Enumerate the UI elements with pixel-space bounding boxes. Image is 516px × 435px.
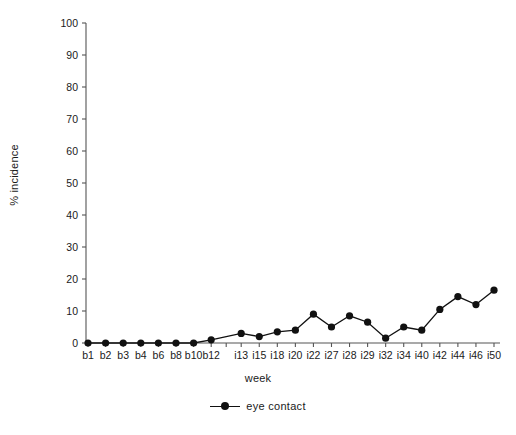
y-tick-label: 20 [66,273,78,285]
y-tick-label: 0 [72,337,78,349]
data-point [256,333,263,340]
y-tick-label: 90 [66,49,78,61]
x-tick-label: i32 [379,349,393,361]
x-tick-label: b6 [153,349,165,361]
y-tick-label: 70 [66,113,78,125]
data-point [472,301,479,308]
x-tick-label: b10 [185,349,203,361]
data-point [102,339,109,346]
data-point [418,327,425,334]
x-tick-label: i27 [324,349,338,361]
data-point [364,319,371,326]
y-tick-label: 10 [66,305,78,317]
x-tick-label: i13 [234,349,248,361]
x-tick-label: b4 [135,349,147,361]
data-point [454,293,461,300]
chart-legend: eye contact [0,400,516,412]
x-tick-label: i46 [469,349,483,361]
data-point [400,323,407,330]
data-point [190,339,197,346]
data-point [436,306,443,313]
legend-label-eye-contact: eye contact [246,400,306,412]
y-axis: 0102030405060708090100 [60,17,86,349]
chart-container: 0102030405060708090100 b1b2b3b4b6b8b10b1… [0,0,516,435]
x-tick-label: i18 [270,349,284,361]
x-tick-label: i50 [487,349,501,361]
y-tick-label: 80 [66,81,78,93]
data-point [120,339,127,346]
x-tick-label: b3 [117,349,129,361]
x-tick-label: b1 [82,349,94,361]
x-tick-label: i20 [288,349,302,361]
x-tick-label: b2 [100,349,112,361]
x-tick-label: i40 [415,349,429,361]
x-tick-label: i42 [433,349,447,361]
data-point [208,336,215,343]
data-point [84,339,91,346]
y-tick-label: 30 [66,241,78,253]
y-tick-label: 100 [60,17,78,29]
data-point [346,312,353,319]
legend-marker-icon [210,401,240,411]
y-tick-label: 60 [66,145,78,157]
data-point [274,328,281,335]
data-point [238,330,245,337]
y-tick-label: 50 [66,177,78,189]
x-tick-label: i29 [361,349,375,361]
x-tick-label: i44 [451,349,465,361]
x-axis-title: week [0,372,516,384]
x-axis: b1b2b3b4b6b8b10b12i13i15i18i20i22i27i28i… [82,343,501,361]
x-tick-label: b12 [202,349,220,361]
x-tick-label: i28 [343,349,357,361]
data-point [310,311,317,318]
data-point [172,339,179,346]
data-point [155,339,162,346]
x-tick-label: b8 [170,349,182,361]
series-eye-contact [84,287,497,347]
data-point [292,327,299,334]
data-point [328,323,335,330]
x-tick-label: i15 [252,349,266,361]
data-point [382,335,389,342]
data-point [490,287,497,294]
y-tick-label: 40 [66,209,78,221]
data-point [137,339,144,346]
x-tick-label: i22 [306,349,320,361]
y-axis-title: % incidence [8,120,20,230]
chart-plot-area: 0102030405060708090100 b1b2b3b4b6b8b10b1… [0,0,516,435]
x-tick-label: i34 [397,349,411,361]
